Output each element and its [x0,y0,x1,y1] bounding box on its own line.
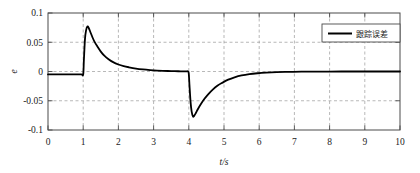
xtick-label-9: 9 [362,137,367,147]
ytick-label-0: 0.1 [31,8,43,18]
xtick-label-0: 0 [46,137,51,147]
yaxis-title: e [9,69,19,73]
xtick-label-5: 5 [222,137,227,147]
xtick-label-6: 6 [257,137,262,147]
xtick-label-10: 10 [395,137,405,147]
xtick-label-3: 3 [151,137,156,147]
ytick-label-1: 0.05 [26,38,43,48]
xtick-label-4: 4 [186,137,191,147]
xtick-label-1: 1 [81,137,86,147]
ytick-label-2: 0 [38,67,43,77]
legend-label-tracking-error: 跟踪误差 [356,29,388,39]
xaxis-title: t/s [220,157,229,167]
xtick-label-8: 8 [327,137,332,147]
line-chart: 0.1 0.05 0 -0.05 -0.1 0 1 2 3 4 5 6 7 8 … [0,0,420,173]
chart-figure: 0.1 0.05 0 -0.05 -0.1 0 1 2 3 4 5 6 7 8 … [0,0,420,173]
ytick-label-4: -0.1 [28,125,43,135]
xtick-label-7: 7 [292,137,297,147]
ytick-label-3: -0.05 [23,96,43,106]
legend[interactable]: 跟踪误差 [322,24,400,42]
xtick-label-2: 2 [116,137,121,147]
